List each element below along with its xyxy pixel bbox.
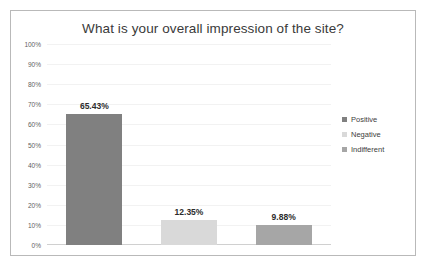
gridline [47,44,331,45]
y-axis-tick-label: 10% [28,221,41,228]
y-axis-tick-label: 60% [28,121,41,128]
bar-indifferent[interactable] [256,225,312,245]
bar-value-label: 12.35% [161,207,217,217]
gridline [47,84,331,85]
legend-swatch-icon [342,132,347,137]
y-axis-tick-label: 40% [28,161,41,168]
legend-swatch-icon [342,147,347,152]
y-axis-tick-label: 30% [28,181,41,188]
legend-item-label: Positive [351,115,377,124]
bar-positive[interactable] [66,114,122,246]
legend-item-label: Negative [351,130,381,139]
chart-title: What is your overall impression of the s… [11,21,415,36]
chart-legend: PositiveNegativeIndifferent [342,112,414,157]
plot-area: 65.43%12.35%9.88% [47,44,331,245]
legend-item-positive[interactable]: Positive [342,112,414,127]
bar-value-label: 9.88% [256,212,312,222]
bar-negative[interactable] [161,220,217,245]
y-axis-tick-label: 100% [24,41,41,48]
gridline [47,64,331,65]
legend-swatch-icon [342,117,347,122]
bar-value-label: 65.43% [66,101,122,111]
legend-item-label: Indifferent [351,145,384,154]
y-axis-tick-label: 80% [28,81,41,88]
legend-item-indifferent[interactable]: Indifferent [342,142,414,157]
y-axis-tick-label: 20% [28,201,41,208]
y-axis-tick-label: 70% [28,101,41,108]
y-axis: 100%90%80%70%60%50%40%30%20%10%0% [11,44,45,245]
chart-frame: What is your overall impression of the s… [10,10,416,256]
y-axis-tick-label: 50% [28,141,41,148]
y-axis-tick-label: 90% [28,61,41,68]
legend-item-negative[interactable]: Negative [342,127,414,142]
y-axis-tick-label: 0% [32,242,41,249]
